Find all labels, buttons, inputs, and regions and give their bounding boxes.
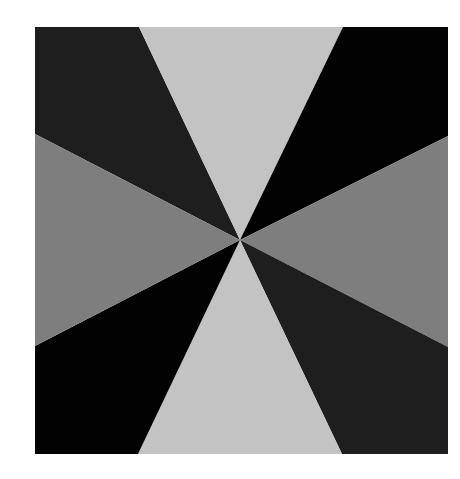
pinwheel-graphic <box>0 0 460 479</box>
wedge-group <box>35 27 448 454</box>
pinwheel-image <box>0 0 460 479</box>
